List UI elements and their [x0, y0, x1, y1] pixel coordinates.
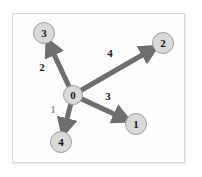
graph-node-label-3: 3 — [41, 27, 47, 39]
graph-edge — [79, 50, 150, 91]
graph-edge — [64, 102, 71, 128]
graph-node-label-2: 2 — [160, 37, 166, 49]
edge-weight-label-0-4: 1 — [50, 103, 56, 115]
graph-node-label-1: 1 — [133, 118, 139, 130]
edge-weight-label-0-1: 3 — [105, 90, 111, 102]
graph-edge — [80, 98, 123, 118]
diagram-canvas: 03214 2431 — [0, 0, 202, 177]
edge-weight-label-0-2: 4 — [107, 47, 113, 59]
nodes-layer: 03214 — [34, 23, 174, 153]
graph-node-label-4: 4 — [58, 136, 64, 148]
graph-edge — [50, 46, 70, 89]
edge-weight-label-0-3: 2 — [39, 61, 45, 73]
graph-node-label-0: 0 — [70, 89, 76, 101]
graph-svg: 03214 2431 — [0, 0, 202, 177]
